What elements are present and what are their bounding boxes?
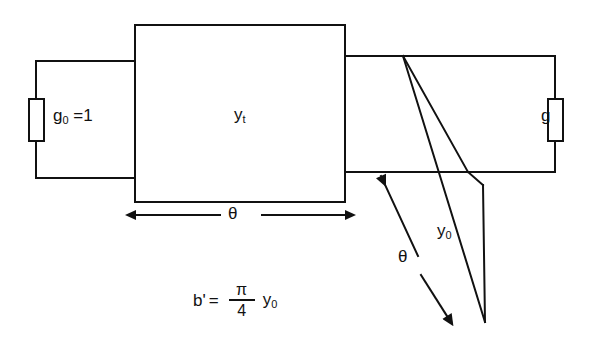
- formula-b-prime: b' = π 4 y0: [193, 282, 277, 319]
- left-resistor-body: [29, 99, 44, 141]
- label-transmission-block: yt: [234, 106, 246, 125]
- formula-rhs-subscript: 0: [271, 299, 277, 311]
- formula-lhs: b': [193, 291, 206, 311]
- formula-rhs-base: y: [263, 290, 272, 309]
- formula-numerator: π: [236, 282, 247, 299]
- label-width-theta: θ: [228, 205, 237, 222]
- circuit-diagram: g0 =1 yt g θ y0 θ b' = π 4 y0: [0, 0, 593, 343]
- label-load-conductance: g: [541, 107, 550, 124]
- formula-rhs: y0: [263, 290, 278, 310]
- load-loop-wires: [345, 56, 555, 172]
- label-transmission-block-subscript: t: [243, 113, 246, 125]
- label-source-conductance: g0 =1: [53, 107, 93, 126]
- formula-equals: =: [209, 291, 219, 311]
- label-stub-length-subscript: 0: [446, 229, 452, 241]
- label-source-conductance-suffix: =1: [69, 106, 93, 125]
- formula-denominator: 4: [237, 301, 246, 319]
- label-transmission-block-base: y: [234, 105, 243, 124]
- label-stub-angle-theta: θ: [398, 248, 407, 265]
- circuit-schematic-svg: [0, 0, 593, 343]
- angle-dimension-arrow: [381, 176, 447, 316]
- label-load-conductance-base: g: [541, 106, 550, 125]
- label-stub-length: y0: [437, 222, 452, 241]
- slanted-stub-outline: [403, 56, 485, 322]
- label-stub-length-base: y: [437, 221, 446, 240]
- formula-fraction: π 4: [229, 282, 255, 319]
